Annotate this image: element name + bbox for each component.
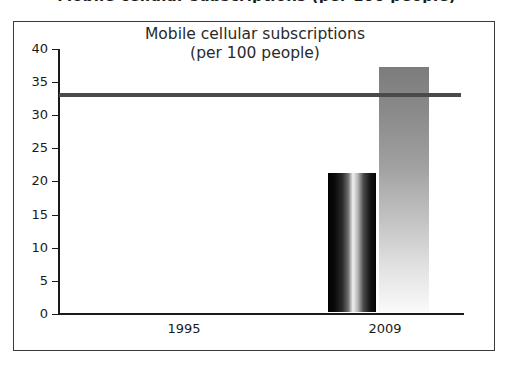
chart-title-line-1: Mobile cellular subscriptions xyxy=(145,25,365,43)
reference-line xyxy=(59,93,461,97)
y-tick-mark xyxy=(52,215,58,217)
bar-2009-light xyxy=(379,67,429,312)
chart-figure: Mobile cellular subscriptions (per 100 p… xyxy=(13,21,495,351)
y-tick-label: 0 xyxy=(40,305,48,322)
y-tick-mark xyxy=(52,49,58,51)
y-tick-mark xyxy=(52,281,58,283)
y-tick-mark xyxy=(52,181,58,183)
x-tick-label-2009: 2009 xyxy=(368,321,401,336)
y-tick-label: 5 xyxy=(40,272,48,289)
y-tick-label: 20 xyxy=(31,172,48,189)
y-tick-mark xyxy=(52,115,58,117)
clipped-header-text: Mobile cellular subscriptions (per 100 p… xyxy=(0,0,513,3)
y-tick-label: 15 xyxy=(31,206,48,223)
y-tick-mark xyxy=(52,148,58,150)
y-tick-mark xyxy=(52,82,58,84)
y-tick-label: 25 xyxy=(31,139,48,156)
y-tick-label: 30 xyxy=(31,106,48,123)
x-axis-line xyxy=(58,313,464,315)
y-tick-label: 40 xyxy=(31,40,48,57)
chart-title-line-2: (per 100 people) xyxy=(14,44,496,63)
y-tick-label: 35 xyxy=(31,73,48,90)
chart-title: Mobile cellular subscriptions (per 100 p… xyxy=(14,25,496,63)
bar-2009-dark xyxy=(328,173,376,312)
y-tick-label: 10 xyxy=(31,239,48,256)
y-tick-mark xyxy=(52,248,58,250)
x-tick-label-1995: 1995 xyxy=(167,321,200,336)
y-tick-mark xyxy=(52,314,58,316)
y-axis-line xyxy=(58,49,60,315)
